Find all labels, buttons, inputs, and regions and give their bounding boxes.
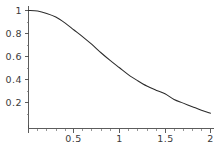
x-axis-label-1: 1 xyxy=(116,133,123,144)
plot-figure: 1 0.8 0.6 0.4 0.2 xyxy=(0,0,219,145)
x-axis-label-1-5: 1.5 xyxy=(157,133,174,144)
y-axis-label-0-6: 0.6 xyxy=(5,51,22,62)
plot-background xyxy=(0,0,219,145)
y-axis-label-0-8: 0.8 xyxy=(5,28,22,39)
y-axis-label-1: 1 xyxy=(15,5,22,16)
y-axis-label-0-2: 0.2 xyxy=(5,97,22,108)
y-axis-label-0-4: 0.4 xyxy=(5,74,22,85)
x-axis-label-2: 2 xyxy=(207,133,214,144)
plot-canvas: 1 0.8 0.6 0.4 0.2 xyxy=(0,0,219,145)
x-axis-label-0-5: 0.5 xyxy=(65,133,82,144)
